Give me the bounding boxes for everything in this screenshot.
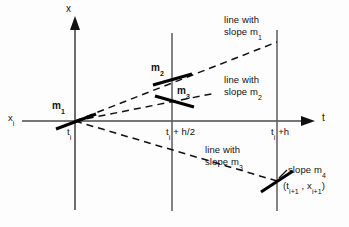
tick-label-ti-plus-h: ti +h <box>271 126 289 137</box>
rk4-slope-diagram: x t xi m1 ti ti + h/2 ti +h m2 m3 line w… <box>0 0 349 227</box>
annotation-m2-line-a: line with <box>224 74 262 86</box>
slope-label-m3: m3 <box>177 85 190 97</box>
horizontal-axis-arrowhead <box>301 116 315 126</box>
annotation-endpoint-coordinates: (ti+1 , xi+1) <box>283 180 325 191</box>
axis-label-x: x <box>66 3 71 15</box>
axis-label-t: t <box>322 112 325 124</box>
vertical-axis <box>70 16 80 210</box>
tick-label-ti-half-h: ti + h/2 <box>166 126 195 137</box>
annotation-slope-m4: slope m4 <box>288 164 326 175</box>
vertical-axis-arrowhead <box>70 16 80 30</box>
annotation-m1-line-a: line with <box>224 14 262 26</box>
slope-label-m1: m1 <box>52 100 65 112</box>
annotation-line-slope-m2: line with slope m2 <box>224 74 262 98</box>
origin-x-label: xi <box>8 112 15 123</box>
annotation-line-slope-m1: line with slope m1 <box>224 14 262 38</box>
annotation-line-slope-m3: line with slope m3 <box>205 144 243 168</box>
annotation-m2-line-b: slope m2 <box>224 86 262 98</box>
annotation-m1-line-b: slope m1 <box>224 26 262 38</box>
dashed-line-slope-m2 <box>75 93 216 121</box>
slope-label-m2: m2 <box>151 62 164 74</box>
annotation-m3-line-a: line with <box>205 144 243 156</box>
annotation-m3-line-b: slope m3 <box>205 156 243 168</box>
tick-label-ti: ti <box>67 126 71 137</box>
